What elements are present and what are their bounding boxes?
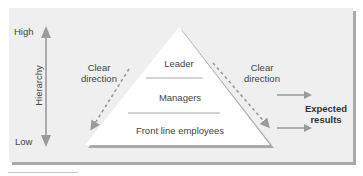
- caption-rule: [8, 172, 78, 173]
- right-arrow-label-line2: direction: [236, 73, 288, 84]
- left-arrow-label-line1: Clear: [75, 62, 123, 73]
- pyramid-level-front-line: Front line employees: [120, 125, 240, 136]
- axis-high-label: High: [14, 26, 34, 37]
- pyramid-level-leader: Leader: [150, 58, 208, 69]
- expected-results-line2: results: [302, 114, 350, 125]
- left-arrow-label: Clear direction: [75, 62, 123, 84]
- axis-title: Hierarchy: [33, 61, 44, 111]
- axis-low-label: Low: [15, 136, 32, 147]
- right-arrow-label-line1: Clear: [236, 62, 288, 73]
- right-arrow-label: Clear direction: [236, 62, 288, 84]
- left-arrow-label-line2: direction: [75, 73, 123, 84]
- expected-results-line1: Expected: [302, 103, 350, 114]
- diagram-graphics: [0, 0, 363, 176]
- pyramid-level-managers: Managers: [140, 92, 220, 103]
- expected-results-label: Expected results: [302, 103, 350, 125]
